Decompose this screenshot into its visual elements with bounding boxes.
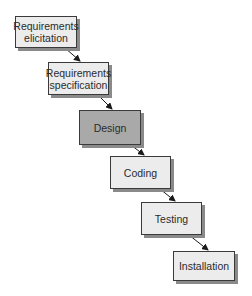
stage-installation: Installation — [173, 251, 235, 281]
waterfall-diagram: Requirements elicitation Requirements sp… — [0, 0, 252, 296]
arrow-coding-to-testing — [160, 189, 175, 201]
stage-label: Requirements elicitation — [13, 20, 78, 44]
arrow-design-to-coding — [131, 145, 144, 155]
stage-label: Installation — [179, 260, 229, 272]
stage-requirements-elicitation: Requirements elicitation — [15, 16, 77, 48]
stage-design: Design — [79, 110, 141, 145]
arrow-specification-to-design — [98, 95, 112, 109]
stage-requirements-specification: Requirements specification — [48, 62, 109, 95]
stage-coding: Coding — [110, 156, 171, 189]
stage-testing: Testing — [141, 202, 202, 235]
stage-label: Testing — [155, 213, 188, 225]
arrow-testing-to-installation — [189, 235, 208, 250]
stage-label: Requirements specification — [46, 67, 111, 91]
stage-label: Coding — [124, 167, 157, 179]
stage-label: Design — [94, 122, 127, 134]
arrow-elicitation-to-specification — [65, 48, 80, 61]
